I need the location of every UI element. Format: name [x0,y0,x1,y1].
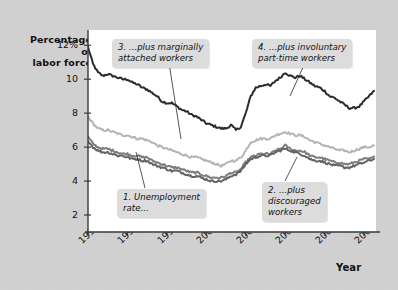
callout-marginally-attached: 3. ...plus marginally attached workers [112,39,209,68]
x-axis-title: Year [336,262,380,274]
callout-discouraged-workers: 2. ...plus discouraged workers [262,182,327,222]
figure-panel: Percentage of labor force 12%108642 1994… [0,0,398,290]
callout-involuntary-part-time: 4. ...plus involuntary part-time workers [252,39,352,68]
series-line-3 [88,136,374,178]
callout-unemployment-rate: 1. Unemployment rate... [117,189,206,218]
